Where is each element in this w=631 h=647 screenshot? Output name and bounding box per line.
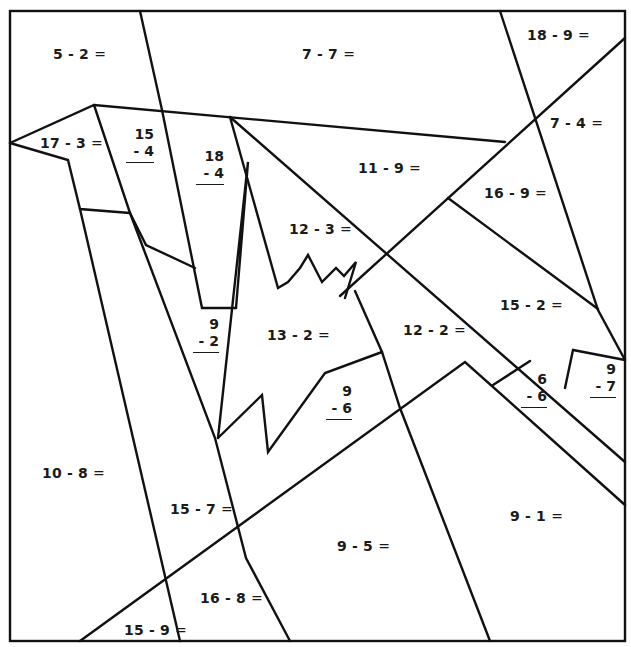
problem-15-7: 15 - 7 = bbox=[170, 501, 233, 517]
problem-15-2: 15 - 2 = bbox=[500, 297, 563, 313]
problem-6-minus-6: 6 - 6 bbox=[521, 371, 547, 408]
problem-13-2: 13 - 2 = bbox=[267, 327, 330, 343]
wing-jagged bbox=[230, 117, 356, 298]
problem-12-2: 12 - 2 = bbox=[403, 322, 466, 338]
problem-12-3: 12 - 3 = bbox=[289, 221, 352, 237]
problem-16-9: 16 - 9 = bbox=[484, 185, 547, 201]
bird-head-lower bbox=[10, 143, 130, 213]
wing-left-edge bbox=[218, 162, 248, 438]
region-outlines bbox=[0, 0, 631, 647]
problem-9-minus-2: 9 - 2 bbox=[193, 316, 219, 353]
color-by-number-worksheet: 5 - 2 = 7 - 7 = 18 - 9 = 17 - 3 = 7 - 4 … bbox=[0, 0, 631, 647]
problem-5-2: 5 - 2 = bbox=[53, 46, 106, 62]
divider-center-vertical bbox=[355, 291, 490, 641]
bird-left-long bbox=[80, 209, 180, 641]
problem-9-5: 9 - 5 = bbox=[337, 538, 390, 554]
problem-9-1: 9 - 1 = bbox=[510, 508, 563, 524]
divider-16-9 bbox=[448, 198, 598, 309]
problem-18-9: 18 - 9 = bbox=[527, 27, 590, 43]
problem-9-minus-6: 9 - 6 bbox=[326, 383, 352, 420]
diagonal-long bbox=[230, 117, 625, 462]
problem-18-minus-4: 18 - 4 bbox=[196, 148, 224, 185]
problem-9-minus-7: 9 - 7 bbox=[590, 361, 616, 398]
problem-7-4: 7 - 4 = bbox=[550, 115, 603, 131]
problem-15-9: 15 - 9 = bbox=[124, 622, 187, 638]
problem-11-9: 11 - 9 = bbox=[358, 160, 421, 176]
wing-lower-edge bbox=[218, 352, 382, 452]
problem-7-7: 7 - 7 = bbox=[302, 46, 355, 62]
problem-15-minus-4: 15 - 4 bbox=[126, 126, 154, 163]
problem-17-3: 17 - 3 = bbox=[40, 135, 103, 151]
problem-10-8: 10 - 8 = bbox=[42, 465, 105, 481]
problem-16-8: 16 - 8 = bbox=[200, 590, 263, 606]
